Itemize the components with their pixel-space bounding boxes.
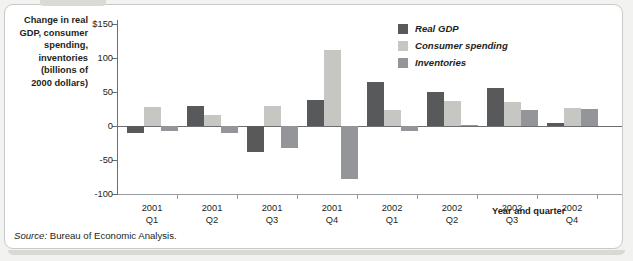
bar [324, 50, 341, 126]
bar [427, 92, 444, 126]
bar-group: 2002Q4 [547, 20, 607, 195]
bar [307, 100, 324, 126]
legend-label: Consumer spending [415, 40, 508, 51]
bar [521, 110, 538, 126]
legend-swatch [398, 41, 408, 51]
x-tick-label: 2001Q2 [182, 202, 242, 226]
bar [444, 101, 461, 126]
y-axis-title-line: GDP, consumer [6, 27, 88, 40]
y-tick-label: $150 [92, 19, 113, 29]
legend-swatch [398, 24, 408, 34]
source-prefix: Source: [14, 230, 47, 241]
plot-area: $150100500-50-100 2001Q12001Q22001Q32001… [117, 20, 622, 195]
bar [547, 123, 564, 126]
y-axis-title-line: (billions of [6, 64, 88, 77]
x-tick-label-line: Q2 [422, 214, 482, 226]
x-tick-label-line: 2001 [182, 202, 242, 214]
y-tick-label: 0 [108, 121, 113, 131]
x-tick-label-line: 2002 [422, 202, 482, 214]
bar [487, 88, 504, 126]
source-text: Bureau of Economic Analysis. [50, 230, 177, 241]
bar [281, 126, 298, 148]
y-axis-title-line: inventories [6, 52, 88, 65]
x-tick-mark [417, 194, 418, 199]
y-axis-title: Change in realGDP, consumerspending,inve… [6, 14, 88, 90]
y-axis-title-line: spending, [6, 39, 88, 52]
x-tick-label-line: Q3 [242, 214, 302, 226]
x-tick-label-line: 2001 [242, 202, 302, 214]
x-tick-label-line: Q2 [182, 214, 242, 226]
bar [161, 126, 178, 131]
x-axis-title: Year and quarter [492, 206, 565, 216]
bar [204, 115, 221, 126]
x-tick-label: 2002Q2 [422, 202, 482, 226]
x-tick-mark [237, 194, 238, 199]
bar-group: 2001Q1 [127, 20, 187, 195]
x-tick-label-line: 2001 [122, 202, 182, 214]
y-tick-label: -100 [94, 189, 113, 199]
tab-nub-decoration [40, 0, 106, 6]
x-tick-label: 2001Q4 [302, 202, 362, 226]
bar [384, 110, 401, 126]
x-tick-mark [357, 194, 358, 199]
source-note: Source: Bureau of Economic Analysis. [14, 230, 177, 241]
legend-label: Real GDP [415, 23, 459, 34]
bar [461, 125, 478, 126]
y-axis-title-line: 2000 dollars) [6, 77, 88, 90]
legend-item: Real GDP [398, 20, 508, 37]
bar [504, 102, 521, 126]
y-tick-label: -50 [100, 155, 113, 165]
x-tick-label-line: Q1 [122, 214, 182, 226]
x-tick-mark [477, 194, 478, 199]
bar [564, 108, 581, 126]
legend-label: Inventories [415, 57, 466, 68]
legend-item: Consumer spending [398, 37, 508, 54]
y-tick-label: 50 [103, 87, 113, 97]
card-shadow [8, 250, 625, 255]
bar [341, 126, 358, 179]
bar [127, 126, 144, 133]
bar-group: 2001Q3 [247, 20, 307, 195]
bar [581, 109, 598, 126]
bar-group: 2001Q4 [307, 20, 367, 195]
x-tick-mark [597, 194, 598, 199]
bar [401, 126, 418, 131]
bar [247, 126, 264, 152]
bar [264, 106, 281, 126]
x-tick-label-line: 2002 [362, 202, 422, 214]
bar-group: 2001Q2 [187, 20, 247, 195]
figure-container: Change in realGDP, consumerspending,inve… [0, 0, 633, 261]
x-tick-label-line: 2001 [302, 202, 362, 214]
bar [144, 107, 161, 126]
x-tick-label-line: Q4 [302, 214, 362, 226]
x-tick-label-line: Q1 [362, 214, 422, 226]
x-tick-label: 2001Q3 [242, 202, 302, 226]
legend-swatch [398, 58, 408, 68]
x-tick-label: 2002Q1 [362, 202, 422, 226]
y-axis-line [117, 20, 118, 195]
x-tick-mark [297, 194, 298, 199]
x-tick-mark [177, 194, 178, 199]
bar [367, 82, 384, 126]
legend-item: Inventories [398, 54, 508, 71]
x-tick-label: 2001Q1 [122, 202, 182, 226]
bar [221, 126, 238, 133]
legend: Real GDPConsumer spendingInventories [398, 20, 508, 71]
x-tick-mark [537, 194, 538, 199]
y-axis-title-line: Change in real [6, 14, 88, 27]
bar [187, 106, 204, 126]
y-tick-label: 100 [97, 53, 113, 63]
